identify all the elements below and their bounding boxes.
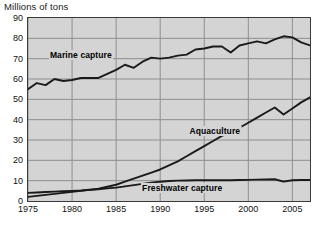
x-axis-tick-1975: 1975 — [18, 204, 38, 214]
series-label-freshwater-capture: Freshwater capture — [141, 183, 223, 193]
series-label-marine-capture: Marine capture — [49, 50, 113, 60]
series-annotation-layer: Marine captureAquacultureFreshwater capt… — [28, 18, 310, 201]
x-axis-tick-1995: 1995 — [194, 204, 214, 214]
series-label-aquaculture: Aquaculture — [188, 126, 241, 136]
chart-figure: Millions of tons 0102030405060708090 197… — [0, 0, 324, 229]
x-axis-tick-2005: 2005 — [282, 204, 302, 214]
x-axis-tick-1985: 1985 — [106, 204, 126, 214]
x-axis-tick-1990: 1990 — [150, 204, 170, 214]
x-axis-tick-2000: 2000 — [238, 204, 258, 214]
plot-area: Marine captureAquacultureFreshwater capt… — [27, 17, 311, 202]
x-axis-tick-1980: 1980 — [62, 204, 82, 214]
